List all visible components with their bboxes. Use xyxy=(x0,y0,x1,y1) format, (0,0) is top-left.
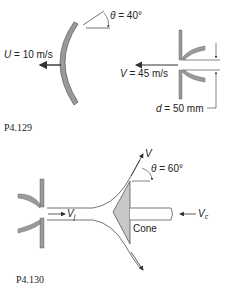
vj-velocity-label: Vj xyxy=(67,208,76,221)
v-upper-arrow xyxy=(131,154,143,176)
vc-velocity-label: Vc xyxy=(198,208,209,220)
diameter-label: d = 50 mm xyxy=(156,103,204,114)
figure-p4-130: V θ = 60° Vj Vc Cone P4.130 xyxy=(16,148,209,285)
u-velocity-label: U = 10 m/s xyxy=(4,49,53,60)
v-lower-arrow xyxy=(131,252,143,270)
theta-label: θ = 40° xyxy=(110,10,142,21)
figure-p4-129: θ = 40° U = 10 m/s V = 45 m/s d = 50 mm … xyxy=(4,10,220,133)
nozzle xyxy=(179,30,205,99)
figure-caption: P4.130 xyxy=(16,274,44,285)
v-velocity-label: V xyxy=(145,148,153,159)
theta-label: θ = 60° xyxy=(151,163,183,174)
curved-vane xyxy=(60,22,78,105)
nozzle xyxy=(18,179,44,248)
vane-tangent-line xyxy=(83,11,104,25)
cone-rod xyxy=(130,208,173,220)
diagram-canvas: θ = 40° U = 10 m/s V = 45 m/s d = 50 mm … xyxy=(0,0,228,290)
theta-arc-icon xyxy=(104,13,109,27)
figure-caption: P4.129 xyxy=(4,122,32,133)
v-velocity-label: V = 45 m/s xyxy=(120,68,168,79)
cone-label: Cone xyxy=(133,223,157,234)
